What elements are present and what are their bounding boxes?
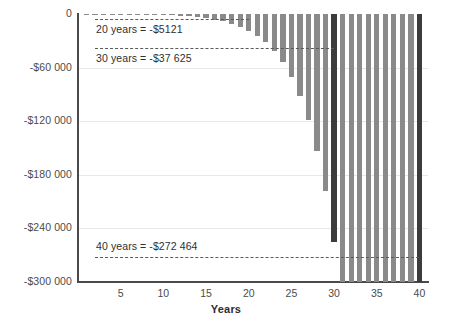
bar-year-7 [135,14,140,15]
x-axis-tick-label: 20 [229,287,269,299]
y-axis-tick-label: 0 [0,7,72,19]
x-axis-title: Years [0,303,452,315]
bar-year-28 [314,14,319,151]
bar-year-12 [178,14,183,16]
bar-year-6 [127,14,132,15]
bar-year-27 [306,14,311,120]
bar-year-35 [374,14,379,282]
bar-year-19 [238,14,243,27]
bar-year-14 [195,14,200,17]
bar-year-25 [289,14,294,77]
annotation-30-years-label: 30 years = -$37 625 [96,52,192,64]
annotation-40-years-label: 40 years = -$272 464 [96,240,198,252]
x-axis-tick-label: 40 [399,287,439,299]
x-axis-tick-label: 10 [143,287,183,299]
y-axis-tick-label: -$60 000 [0,61,72,73]
bar-year-29 [323,14,328,191]
bar-year-33 [357,14,362,282]
bar-year-10 [161,14,166,15]
bar-year-26 [297,14,302,96]
bar-year-15 [203,14,208,18]
y-axis-tick-label: -$240 000 [0,221,72,233]
bar-year-9 [152,14,157,15]
bar-year-8 [144,14,149,15]
bar-year-4 [110,14,115,15]
bar-year-23 [272,14,277,51]
bar-year-1 [84,14,89,15]
bar-year-24 [280,14,285,62]
bar-year-21 [255,14,260,36]
x-axis-tick-label: 5 [101,287,141,299]
bar-year-13 [186,14,191,16]
annotation-20-years-label: 20 years = -$5121 [96,23,183,35]
bar-year-32 [349,14,354,282]
x-axis-tick-label: 35 [357,287,397,299]
bar-year-5 [118,14,123,15]
y-axis-tick-label: -$300 000 [0,275,72,287]
bar-year-22 [263,14,268,42]
bar-year-11 [169,14,174,15]
bar-year-20 [246,14,251,31]
bar-year-34 [366,14,371,282]
y-axis-tick-label: -$180 000 [0,168,72,180]
bar-chart: 0-$60 000-$120 000-$180 000-$240 000-$30… [0,0,452,329]
x-axis-tick-label: 30 [314,287,354,299]
bar-year-38 [400,14,405,282]
bar-year-2 [92,14,97,15]
x-axis-tick-label: 15 [186,287,226,299]
bar-year-3 [101,14,106,15]
annotation-30-years-line [95,48,334,49]
annotation-40-years-line [95,257,419,258]
bar-year-39 [408,14,413,282]
bar-year-36 [383,14,388,282]
y-axis-tick-label: -$120 000 [0,114,72,126]
annotation-20-years-line [95,19,249,20]
bar-year-31 [340,14,345,282]
bar-year-40 [417,14,422,282]
x-axis-tick-label: 25 [271,287,311,299]
bar-year-37 [391,14,396,282]
